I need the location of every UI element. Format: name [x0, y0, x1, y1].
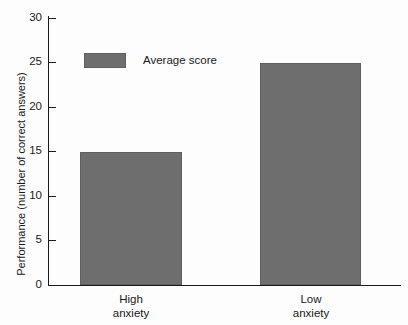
y-tick-mark-25 [49, 62, 56, 63]
y-tick-label-0: 0 [16, 279, 42, 291]
legend-label-average-score: Average score [143, 55, 217, 67]
y-tick-mark-10 [49, 196, 56, 197]
y-tick-label-30: 30 [16, 12, 42, 24]
bar-high-anxiety[interactable] [80, 152, 182, 286]
bar-chart-figure: Performance (number of correct answers) … [0, 0, 408, 325]
x-label-low-anxiety: Low anxiety [261, 293, 361, 320]
y-tick-label-0-wrap: 0 [16, 279, 42, 291]
y-tick-label-30-wrap: 30 [16, 12, 42, 24]
y-tick-label-20-wrap: 20 [16, 101, 42, 113]
y-tick-mark-30 [49, 18, 56, 19]
y-tick-label-25: 25 [16, 56, 42, 68]
y-tick-label-25-wrap: 25 [16, 56, 42, 68]
y-tick-mark-15 [49, 151, 56, 152]
legend: Average score [84, 53, 217, 68]
y-tick-mark-20 [49, 107, 56, 108]
y-tick-label-15: 15 [16, 145, 42, 157]
y-tick-label-20: 20 [16, 101, 42, 113]
x-axis-line [48, 285, 401, 286]
y-axis-title: Performance (number of correct answers) [15, 49, 27, 299]
y-tick-label-10-wrap: 10 [16, 190, 42, 202]
y-tick-mark-0 [49, 285, 56, 286]
legend-swatch-average-score [84, 53, 126, 68]
y-tick-label-5-wrap: 5 [16, 234, 42, 246]
y-tick-label-15-wrap: 15 [16, 145, 42, 157]
y-tick-label-10: 10 [16, 190, 42, 202]
x-label-high-anxiety: High anxiety [81, 293, 181, 320]
bar-low-anxiety[interactable] [260, 63, 361, 286]
y-tick-label-5: 5 [16, 234, 42, 246]
y-tick-mark-5 [49, 240, 56, 241]
